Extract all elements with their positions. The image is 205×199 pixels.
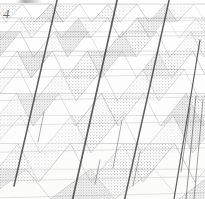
- lattice-diagram: [0, 0, 205, 199]
- scan-smudge-artifact: [16, 0, 42, 3]
- figure-container: 4: [0, 0, 205, 199]
- figure-number-label: 4: [3, 7, 10, 20]
